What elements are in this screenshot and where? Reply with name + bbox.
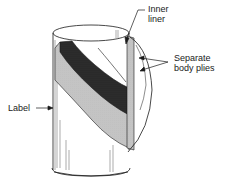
body-plies-label-line2: body plies: [174, 63, 215, 73]
inner-liner-label-line1: Inner: [148, 4, 169, 14]
label-callout: Label: [8, 103, 30, 113]
inner-liner-label-line2: liner: [148, 14, 169, 24]
body-plies-label-line1: Separate: [174, 53, 215, 63]
inner-liner-label: Inner liner: [148, 4, 169, 24]
composite-can-diagram: [0, 0, 233, 192]
body-plies-label: Separate body plies: [174, 53, 215, 73]
inner-liner-strip: [127, 36, 134, 150]
